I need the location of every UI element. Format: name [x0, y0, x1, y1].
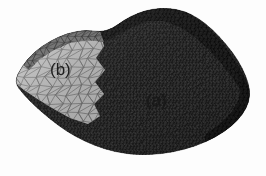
figure-container: (a) (b)	[0, 0, 266, 176]
mesh-render-canvas	[0, 0, 266, 176]
